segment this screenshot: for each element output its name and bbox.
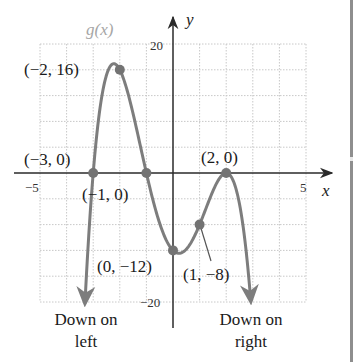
tick-label-y-20: 20 [150,38,163,53]
data-point [168,245,178,255]
tick-label-x-neg5: −5 [25,180,39,195]
point-label-root-neg1: (−1, 0) [82,185,128,204]
data-point [141,168,151,178]
end-behavior-right-line2: right [235,332,267,351]
leader-line [200,225,211,261]
function-graph: g(x) y x −5 5 20 −20 (−2, 16) (−3, 0) (−… [0,0,353,362]
y-axis-label: y [184,10,194,29]
point-label-max: (−2, 16) [24,60,79,79]
point-label-root-2: (2, 0) [201,148,238,167]
right-end-arrow-icon [246,252,251,301]
data-point [115,65,125,75]
data-point [88,168,98,178]
point-label-one: (1, −8) [183,265,229,284]
data-point [195,220,205,230]
point-label-root-neg3: (−3, 0) [24,150,70,169]
tick-label-y-neg20: −20 [140,295,160,310]
end-behavior-left-line2: left [75,332,98,351]
end-behavior-right-line1: Down on [220,310,283,329]
x-axis-label: x [321,181,330,200]
tick-label-x-5: 5 [300,180,307,195]
left-end-arrow-icon [85,224,90,303]
graph-canvas: g(x) y x −5 5 20 −20 (−2, 16) (−3, 0) (−… [0,0,353,362]
end-behavior-left-line1: Down on [55,310,118,329]
function-label: g(x) [86,20,114,39]
point-label-y-intercept: (0, −12) [97,257,152,276]
data-point [221,168,231,178]
